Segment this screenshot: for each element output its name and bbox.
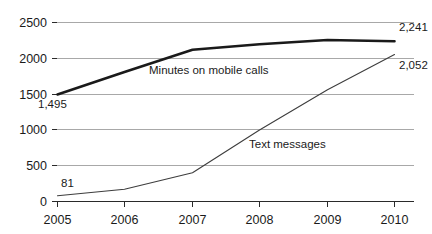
value-label-minutes-2005: 1,495 [38,98,67,110]
ytick-label-1000: 1000 [19,123,47,137]
value-label-text-2010: 2,052 [399,59,428,71]
x-axis-ticks [58,202,395,208]
ytick-label-0: 0 [40,195,47,209]
xtick-label-2007: 2007 [179,213,207,227]
line-chart: 2500 2000 1500 1000 500 0 2005 2006 2007… [0,0,432,234]
gridlines [57,23,414,166]
chart-canvas: 2500 2000 1500 1000 500 0 2005 2006 2007… [0,0,432,234]
xtick-label-2006: 2006 [111,213,139,227]
y-axis-ticks [52,23,57,202]
x-axis-labels: 2005 2006 2007 2008 2009 2010 [44,213,409,227]
ytick-label-500: 500 [26,159,47,173]
series-label-text-messages: Text messages [249,138,326,150]
series-label-minutes: Minutes on mobile calls [149,64,269,76]
value-label-text-2005: 81 [61,177,74,189]
xtick-label-2008: 2008 [246,213,274,227]
xtick-label-2009: 2009 [314,213,342,227]
ytick-label-2000: 2000 [19,52,47,66]
ytick-label-2500: 2500 [19,16,47,30]
xtick-label-2010: 2010 [381,213,409,227]
xtick-label-2005: 2005 [44,213,72,227]
y-axis-labels: 2500 2000 1500 1000 500 0 [19,16,47,209]
value-label-minutes-2010: 2,241 [399,21,428,33]
